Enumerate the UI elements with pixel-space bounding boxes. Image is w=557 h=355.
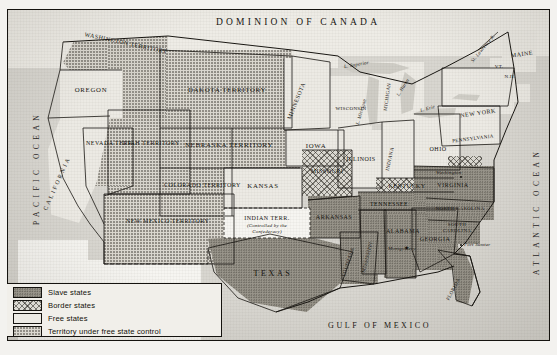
- legend-swatch-slave-states: [13, 287, 42, 298]
- legend-swatch-territory-free-control: [13, 326, 42, 337]
- legend-item-slave-states: Slave states: [13, 286, 221, 298]
- region-indian-territory: [224, 208, 310, 238]
- region-oregon: [60, 70, 122, 118]
- legend-label-slave-states: Slave states: [48, 288, 91, 297]
- legend-swatch-border-states: [13, 300, 42, 311]
- legend-label-border-states: Border states: [48, 301, 95, 310]
- label-pacific-ocean: PACIFIC OCEAN: [32, 111, 41, 225]
- capital-star-montgomery: ★: [404, 245, 409, 251]
- map-page: PACIFIC OCEAN ATLANTIC OCEAN GULF OF MEX…: [0, 0, 557, 355]
- legend-item-free-states: Free states: [13, 312, 221, 324]
- region-new-england-coast: [508, 84, 530, 102]
- region-kansas: [224, 168, 302, 208]
- legend-item-territory-free-control: Territory under free state control: [13, 325, 221, 337]
- fort-marker-sumter: [460, 244, 462, 246]
- region-virginia: [414, 166, 494, 202]
- region-south-carolina: [428, 216, 480, 244]
- label-atlantic-ocean: ATLANTIC OCEAN: [532, 148, 541, 275]
- city-marker-washington: [460, 176, 462, 178]
- region-minnesota: [284, 58, 330, 130]
- map-legend: Slave states Border states Free states T…: [7, 283, 222, 337]
- region-indiana: [382, 122, 414, 180]
- region-missouri: [302, 150, 352, 196]
- legend-swatch-free-states: [13, 313, 42, 324]
- legend-item-border-states: Border states: [13, 299, 221, 311]
- region-mississippi: [360, 210, 386, 274]
- region-wisconsin: [326, 76, 372, 132]
- legend-label-territory-free-control: Territory under free state control: [48, 327, 161, 336]
- legend-label-free-states: Free states: [48, 314, 88, 323]
